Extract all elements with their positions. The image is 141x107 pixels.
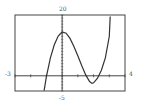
x-max-label: 4 <box>129 71 133 77</box>
y-min-label: -5 <box>59 95 65 101</box>
plot-area <box>0 0 141 107</box>
viewing-window-frame <box>15 15 125 91</box>
x-min-label: -3 <box>5 71 11 77</box>
cubic-curve <box>44 17 110 91</box>
axes <box>15 15 125 91</box>
y-max-label: 20 <box>59 6 67 12</box>
